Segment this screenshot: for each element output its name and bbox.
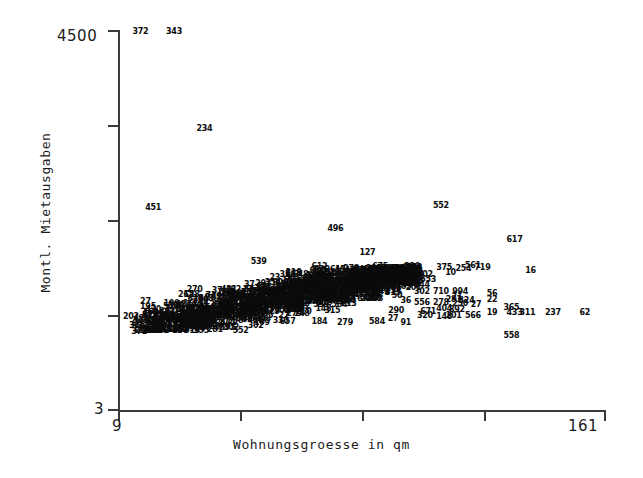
data-point-label: 234: [196, 125, 212, 133]
data-point-label: 244: [199, 321, 215, 329]
data-point-label: 502: [227, 293, 243, 301]
data-point-label: 237: [545, 309, 561, 317]
data-point-label: 451: [145, 204, 161, 212]
data-point-label: 279: [337, 319, 353, 327]
data-point-label: 254: [455, 265, 471, 273]
data-point-label: 184: [311, 318, 327, 326]
data-point-label: 202: [199, 307, 215, 315]
data-point-label: 617: [507, 236, 523, 244]
data-point-label: 539: [251, 258, 267, 266]
data-point-label: 556: [414, 299, 430, 307]
data-point-label: 343: [372, 275, 388, 283]
data-point-label: 311: [519, 309, 535, 317]
data-point-label: 372: [132, 28, 148, 36]
data-point-label: 748: [197, 295, 213, 303]
data-point-label: 27: [388, 315, 399, 323]
data-point-layer: 3723432344515524966171275396126752205617…: [0, 0, 643, 478]
data-point-label: 321: [273, 289, 289, 297]
data-point-label: 237: [251, 297, 267, 305]
data-point-label: 279: [317, 289, 333, 297]
data-point-label: 19: [487, 309, 498, 317]
data-point-label: 584: [369, 318, 385, 326]
data-point-label: 648: [161, 326, 177, 334]
data-point-label: 617: [247, 313, 263, 321]
data-point-label: 237: [407, 271, 423, 279]
data-point-label: 496: [327, 225, 343, 233]
data-point-label: 566: [465, 312, 481, 320]
data-point-label: 748: [140, 326, 156, 334]
data-point-label: 343: [166, 28, 182, 36]
data-point-label: 127: [341, 280, 357, 288]
data-point-label: 372: [233, 314, 249, 322]
scatter-plot-figure: 4500 3 9 161 Wohnungsgroesse in qm Montl…: [0, 0, 643, 478]
data-point-label: 320: [417, 312, 433, 320]
data-point-label: 719: [475, 264, 491, 272]
data-point-label: 152: [220, 301, 236, 309]
data-point-label: 127: [359, 249, 375, 257]
data-point-label: 27: [471, 301, 482, 309]
data-point-label: 22: [487, 296, 498, 304]
data-point-label: 584: [269, 298, 285, 306]
data-point-label: 220: [361, 295, 377, 303]
data-point-label: 558: [251, 288, 267, 296]
data-point-label: 460: [142, 309, 158, 317]
data-point-label: 201: [446, 312, 462, 320]
data-point-label: 558: [503, 332, 519, 340]
data-point-label: 552: [233, 327, 249, 335]
data-point-label: 16: [525, 267, 536, 275]
data-point-label: 91: [401, 319, 412, 327]
data-point-label: 509: [214, 312, 230, 320]
data-point-label: 302: [158, 313, 174, 321]
data-point-label: 552: [433, 202, 449, 210]
data-point-label: 62: [580, 309, 591, 317]
data-point-label: 10: [445, 269, 456, 277]
data-point-label: 315: [324, 307, 340, 315]
data-point-label: 719: [179, 325, 195, 333]
